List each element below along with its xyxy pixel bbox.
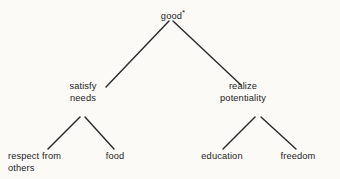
node-realize-potentiality-line-2: potentiality	[207, 93, 279, 105]
node-respect-from-others-line-1: respect from	[8, 151, 82, 163]
edge-satisfy-needs-to-food	[85, 117, 114, 149]
node-realize-potentiality: realize potentiality	[207, 81, 279, 104]
node-satisfy-needs-line-2: needs	[57, 93, 109, 105]
node-education: education	[193, 151, 251, 163]
edge-good-to-satisfy-needs	[106, 21, 169, 87]
node-good: good*	[151, 7, 195, 23]
node-freedom: freedom	[272, 151, 324, 163]
tree-diagram: good* satisfy needs realize potentiality…	[0, 0, 340, 179]
edge-good-to-realize-potentiality	[173, 21, 241, 85]
node-good-label: good*	[151, 7, 195, 23]
node-satisfy-needs-line-1: satisfy	[57, 81, 109, 93]
edge-realize-potentiality-to-freedom	[261, 117, 296, 149]
edge-realize-potentiality-to-education	[223, 117, 255, 149]
node-good-marker: *	[182, 8, 185, 17]
node-respect-from-others-line-2: others	[8, 163, 82, 175]
edge-satisfy-needs-to-respect-from-others	[48, 117, 80, 149]
node-food: food	[98, 151, 132, 163]
node-food-label: food	[98, 151, 132, 163]
node-education-label: education	[193, 151, 251, 163]
node-freedom-label: freedom	[272, 151, 324, 163]
node-satisfy-needs: satisfy needs	[57, 81, 109, 104]
node-respect-from-others: respect from others	[8, 151, 82, 174]
node-realize-potentiality-line-1: realize	[207, 81, 279, 93]
